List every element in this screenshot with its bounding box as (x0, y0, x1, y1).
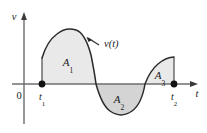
area-a3-label-subscript: 3 (162, 79, 166, 88)
y-axis-label: v (12, 11, 17, 22)
curve-label: v(t) (104, 38, 119, 50)
origin-label: 0 (16, 90, 21, 101)
x-axis-arrow-icon (190, 81, 198, 87)
y-axis-arrow-icon (21, 12, 27, 20)
area-a1-label-subscript: 1 (70, 66, 74, 75)
t1-tick-label: t1 (39, 91, 45, 107)
figure-canvas: v t 0 t1 t2 v(t) A1 A2 (0, 0, 207, 133)
velocity-time-figure: v t 0 t1 t2 v(t) A1 A2 (0, 0, 207, 133)
t2-point-marker (171, 81, 178, 88)
callout-arrow-icon (86, 37, 92, 42)
t1-tick-subscript: 1 (42, 100, 45, 107)
t1-point-marker (39, 81, 46, 88)
t2-tick-label: t2 (171, 91, 178, 107)
x-axis-label: t (196, 88, 200, 99)
curve-label-argument: (t) (109, 38, 119, 50)
t2-tick-subscript: 2 (174, 100, 178, 107)
curve-callout-leader (86, 37, 99, 45)
area-a2-label-subscript: 2 (121, 103, 125, 112)
